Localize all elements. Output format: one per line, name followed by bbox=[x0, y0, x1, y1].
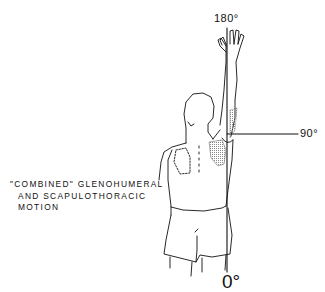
angle-label-0: 0° bbox=[222, 272, 240, 291]
ear-outline bbox=[188, 122, 194, 126]
caption-line-2: AND SCAPULOTHORACIC bbox=[10, 191, 164, 203]
shaded-scapula-region bbox=[209, 140, 226, 166]
angle-label-180: 180° bbox=[214, 12, 239, 24]
shorts-outline bbox=[164, 206, 232, 262]
caption-line-1: "COMBINED" GLENOHUMERAL bbox=[10, 179, 164, 191]
figure-drawing bbox=[0, 0, 325, 292]
left-scapula-dotted bbox=[174, 148, 190, 174]
shoulder-elevation-diagram: 180° 90° 0° "COMBINED" GLENOHUMERAL AND … bbox=[0, 0, 325, 292]
head-outline bbox=[184, 93, 214, 143]
caption: "COMBINED" GLENOHUMERAL AND SCAPULOTHORA… bbox=[10, 179, 164, 214]
caption-line-3: MOTION bbox=[10, 202, 164, 214]
angle-label-90: 90° bbox=[300, 127, 318, 139]
